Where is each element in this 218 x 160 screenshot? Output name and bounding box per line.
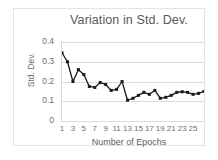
data-point-marker bbox=[77, 68, 80, 71]
data-point-marker bbox=[164, 96, 167, 99]
data-point-marker bbox=[137, 94, 140, 97]
data-point-marker bbox=[175, 91, 178, 94]
data-point-marker bbox=[181, 90, 184, 93]
y-axis-tick-label: 0.4 bbox=[32, 37, 54, 46]
data-point-marker bbox=[142, 91, 145, 94]
plot-area bbox=[62, 42, 204, 121]
data-point-marker bbox=[159, 97, 162, 100]
data-point-marker bbox=[99, 81, 102, 84]
data-point-marker bbox=[197, 92, 200, 95]
data-point-marker bbox=[71, 80, 74, 83]
data-point-marker bbox=[126, 99, 129, 102]
data-point-marker bbox=[110, 89, 113, 92]
y-axis-tick-label: 0.3 bbox=[32, 57, 54, 66]
data-point-marker bbox=[132, 97, 135, 100]
data-point-marker bbox=[121, 80, 124, 83]
data-point-marker bbox=[88, 85, 91, 88]
x-axis-tick-label: 25 bbox=[185, 124, 201, 133]
data-point-marker bbox=[148, 93, 151, 96]
data-point-marker bbox=[104, 83, 107, 86]
data-point-marker bbox=[186, 91, 189, 94]
data-point-marker bbox=[170, 94, 173, 97]
data-point-marker bbox=[82, 73, 85, 76]
data-point-marker bbox=[62, 51, 64, 54]
data-point-marker bbox=[203, 90, 205, 93]
data-point-marker bbox=[192, 93, 195, 96]
data-point-marker bbox=[93, 86, 96, 89]
data-point-marker bbox=[115, 88, 118, 91]
y-axis-title: Std. Dev. bbox=[26, 47, 36, 93]
chart-title: Variation in Std. Dev. bbox=[54, 13, 204, 29]
y-axis-tick-label: 0 bbox=[32, 116, 54, 125]
data-point-marker bbox=[153, 89, 156, 92]
series-line-stddev bbox=[62, 42, 204, 121]
data-point-marker bbox=[66, 60, 69, 63]
y-axis-tick-label: 0.1 bbox=[32, 96, 54, 105]
gridline bbox=[62, 121, 204, 122]
x-axis-title: Number of Epochs bbox=[54, 137, 204, 147]
chart-card: Variation in Std. Dev. Std. Dev. 00.10.2… bbox=[13, 8, 205, 146]
y-axis-tick-label: 0.2 bbox=[32, 77, 54, 86]
